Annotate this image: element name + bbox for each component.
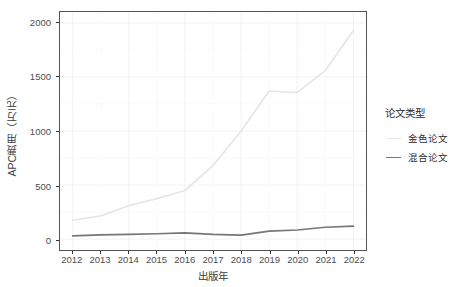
x-tick-mark [185,251,186,254]
x-tick-label: 2015 [146,254,167,265]
x-tick-label: 2012 [61,254,82,265]
legend-items: 金色论文混合论文 [385,129,470,165]
x-tick-label: 2019 [259,254,280,265]
x-tick-label: 2021 [315,254,336,265]
x-tick-mark [241,251,242,254]
series-line [73,30,354,220]
x-tick-mark [354,251,355,254]
x-tick-mark [156,251,157,254]
legend-line-swatch-icon [385,149,402,164]
plot-area [59,11,367,251]
legend: 论文类型 金色论文混合论文 [385,105,470,167]
legend-item[interactable]: 混合论文 [385,148,470,165]
x-tick-mark [270,251,271,254]
x-axis-title: 出版年 [59,268,367,283]
x-tick-label: 2014 [118,254,139,265]
y-axis-tick-labels: 0500100015002000 [22,0,55,287]
legend-item-label: 金色论文 [408,131,448,145]
y-tick-label: 2000 [30,16,51,27]
y-tick-mark [56,186,59,187]
line-chart: APC费用（万元） 0500100015002000 2012201320142… [0,0,470,287]
y-tick-label: 1500 [30,71,51,82]
y-tick-mark [56,131,59,132]
x-tick-label: 2017 [202,254,223,265]
x-tick-mark [298,251,299,254]
y-tick-mark [56,240,59,241]
x-tick-mark [326,251,327,254]
legend-title: 论文类型 [385,105,470,120]
x-tick-mark [72,251,73,254]
x-tick-label: 2020 [287,254,308,265]
y-tick-mark [56,76,59,77]
y-axis-title-text: APC费用（万元） [4,89,19,177]
legend-item-label: 混合论文 [408,150,448,164]
x-tick-mark [128,251,129,254]
y-tick-mark [56,22,59,23]
x-tick-label: 2022 [344,254,365,265]
x-tick-mark [213,251,214,254]
series-line [73,226,354,236]
series-lines [60,12,366,250]
y-tick-label: 1000 [30,126,51,137]
x-tick-mark [100,251,101,254]
y-tick-label: 0 [46,235,51,246]
x-tick-label: 2018 [231,254,252,265]
legend-line-swatch-icon [385,130,402,145]
y-axis-title: APC费用（万元） [0,0,22,265]
x-tick-label: 2013 [89,254,110,265]
legend-item[interactable]: 金色论文 [385,129,470,146]
x-tick-label: 2016 [174,254,195,265]
y-tick-label: 500 [35,180,51,191]
